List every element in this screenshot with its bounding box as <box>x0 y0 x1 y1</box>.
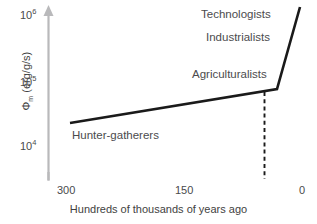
y-tick-label-1e4: 104 <box>20 139 36 152</box>
annotation-industrialists: Industrialists <box>206 32 270 44</box>
annotation-hunter-gatherers: Hunter-gatherers <box>72 130 159 142</box>
y-tick-label-1e6: 106 <box>20 8 36 21</box>
x-tick-label-0: 0 <box>299 185 305 196</box>
y-axis-label-symbol: Φ <box>20 102 32 111</box>
y-axis-label-units: (erg/g/s) <box>20 52 32 96</box>
data-line <box>70 7 300 123</box>
y-axis-arrow-icon <box>44 5 54 16</box>
x-tick-label-300: 300 <box>57 185 75 196</box>
annotation-technologists: Technologists <box>201 9 271 21</box>
chart-figure: 106 105 104 Φm (erg/g/s) 300 150 0 Hundr… <box>0 0 317 224</box>
y-tick-base-1e4: 10 <box>20 140 32 152</box>
x-tick-label-150: 150 <box>175 185 193 196</box>
y-axis-label: Φm (erg/g/s) <box>20 26 34 136</box>
y-tick-exp-1e4: 4 <box>32 138 36 147</box>
annotation-agriculturalists: Agriculturalists <box>192 69 267 81</box>
y-tick-base-1e6: 10 <box>20 9 32 21</box>
x-axis-label: Hundreds of thousands of years ago <box>0 203 317 215</box>
y-axis-label-subscript: m <box>27 96 34 102</box>
y-tick-exp-1e6: 6 <box>32 7 36 16</box>
